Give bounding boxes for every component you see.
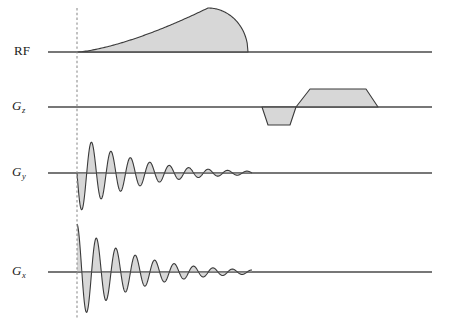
channel-label-gy: Gy [12,165,25,178]
channel-label-rf: RF [14,44,30,57]
gz-trapezoid-positive [296,89,378,107]
gx-oscillation-fill [77,224,252,312]
channel-label-gz-sub: z [22,105,25,115]
pulse-sequence-diagram: RF Gz Gy Gx [0,0,449,328]
gx-oscillation-curve [77,224,252,312]
channel-label-gx: Gx [12,264,25,277]
channel-label-gz-base: G [12,98,21,113]
channel-label-gz: Gz [12,99,25,112]
channel-label-gx-base: G [12,263,21,278]
channel-label-gy-sub: y [22,171,26,181]
waveforms-group [48,8,432,312]
gy-oscillation-fill [77,142,252,210]
channel-label-rf-text: RF [14,43,30,58]
rf-pulse-envelope [77,8,248,52]
pulse-sequence-canvas [0,0,449,328]
gz-trapezoid-negative [262,107,296,125]
baselines-group [48,52,432,272]
channel-label-gx-sub: x [22,270,26,280]
channel-label-gy-base: G [12,164,21,179]
